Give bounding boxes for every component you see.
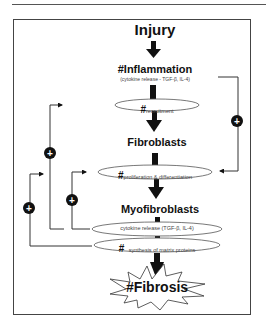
node-recruitment: #recruitment	[140, 99, 173, 117]
synthesis-label: synthesis of matrix proteins	[129, 247, 196, 253]
arrow-injury-inflammation	[146, 41, 161, 58]
inflammation-subtitle: (cytokine release - TGF-β, IL-4)	[120, 76, 190, 82]
feedback-cytokine-to-proliferation: +	[66, 172, 90, 229]
node-injury: Injury	[135, 21, 176, 38]
feedback-inflammation-to-proliferation: +	[218, 77, 243, 171]
node-proliferation: #proliferation & differentiation	[118, 165, 192, 183]
bar-myofibroblasts-cytokine	[155, 217, 160, 222]
recruitment-label: recruitment	[146, 108, 174, 114]
feedback-cytokine-to-recruitment: +	[44, 105, 64, 229]
feedback-synthesis-to-proliferation: +	[23, 174, 92, 246]
node-cytokine-release: cytokine release (TGF-β, IL-4)	[120, 225, 193, 231]
diagram-graphics: + + + +	[0, 0, 266, 326]
proliferation-label: proliferation & differentiation	[124, 174, 192, 180]
node-myofibroblasts: Myofibroblasts	[121, 203, 199, 215]
node-inflammation: #Inflammation	[118, 63, 193, 75]
synthesis-hash: #	[119, 243, 125, 254]
node-synthesis: # synthesis of matrix proteins	[119, 238, 196, 256]
svg-text:+: +	[234, 116, 240, 127]
node-fibroblasts: Fibroblasts	[127, 136, 186, 148]
svg-text:+: +	[69, 195, 75, 206]
svg-text:+: +	[47, 148, 53, 159]
bar-inflammation-recruitment	[150, 85, 156, 99]
node-fibrosis: #Fibrosis	[126, 279, 188, 295]
svg-text:+: +	[26, 203, 32, 214]
